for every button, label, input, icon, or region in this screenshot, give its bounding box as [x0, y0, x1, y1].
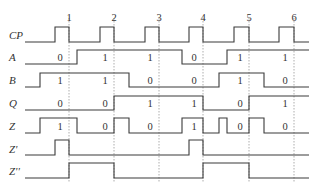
logic-value: 0: [147, 75, 152, 86]
logic-value: 1: [57, 121, 62, 132]
signal-traces: CPA011011B110010Q001101Z100100Z'Z'': [8, 27, 309, 178]
timing-diagram: 123456 CPA011011B110010Q001101Z100100Z'Z…: [0, 0, 319, 194]
clock-edge-number: 6: [291, 12, 296, 23]
logic-value: 0: [57, 98, 62, 109]
logic-value: 0: [282, 121, 287, 132]
waveform: [25, 140, 309, 155]
signal-label: A: [8, 51, 16, 63]
logic-value: 1: [237, 75, 242, 86]
logic-value: 1: [147, 52, 152, 63]
logic-value: 1: [147, 98, 152, 109]
logic-value: 0: [102, 98, 107, 109]
clock-edge-number: 2: [111, 12, 116, 23]
waveform: [25, 96, 309, 110]
waveform: [25, 118, 309, 133]
signal-label: B: [9, 74, 16, 86]
clock-edge-number: 3: [156, 12, 161, 23]
signal-label: Z': [9, 143, 18, 155]
logic-value: 0: [237, 121, 242, 132]
clock-edge-number: 4: [200, 12, 206, 23]
clock-edge-number: 1: [66, 12, 71, 23]
logic-value: 1: [191, 98, 196, 109]
signal-cp: CP: [9, 27, 309, 42]
logic-value: 1: [282, 98, 287, 109]
logic-value: 0: [147, 121, 152, 132]
logic-value: 1: [237, 52, 242, 63]
logic-value: 0: [237, 98, 242, 109]
logic-value: 1: [191, 121, 196, 132]
waveform: [25, 163, 309, 178]
logic-value: 1: [102, 75, 107, 86]
signal-label: CP: [9, 29, 23, 41]
waveform: [25, 50, 309, 64]
signal-label: Z'': [9, 165, 20, 177]
logic-value: 1: [102, 52, 107, 63]
logic-value: 1: [57, 75, 62, 86]
signal-a: A011011: [8, 50, 309, 64]
clock-edge-labels: 123456: [66, 12, 296, 23]
waveform: [25, 73, 309, 87]
signal-label: Q: [9, 97, 17, 109]
logic-value: 0: [191, 75, 196, 86]
clock-edge-number: 5: [246, 12, 251, 23]
logic-value: 1: [282, 52, 287, 63]
logic-value: 0: [57, 52, 62, 63]
logic-value: 0: [282, 75, 287, 86]
waveform: [25, 27, 309, 42]
signal-label: Z: [9, 120, 16, 132]
logic-value: 0: [102, 121, 107, 132]
logic-value: 0: [191, 52, 196, 63]
